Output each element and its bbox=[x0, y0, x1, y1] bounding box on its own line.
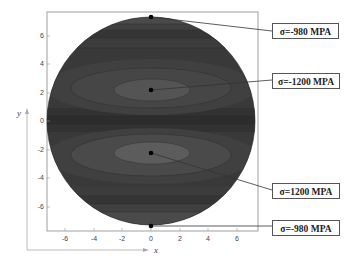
svg-text:4: 4 bbox=[40, 60, 44, 67]
contour-disc bbox=[40, 10, 270, 240]
point-top bbox=[149, 15, 154, 20]
svg-text:4: 4 bbox=[206, 235, 210, 242]
point-lower bbox=[149, 151, 154, 156]
x-tick-labels: -6 -4 -2 0 2 4 6 bbox=[62, 235, 239, 242]
svg-text:2: 2 bbox=[178, 235, 182, 242]
y-tick-labels: 6 4 2 0 -2 -4 -6 bbox=[38, 32, 44, 210]
svg-text:-6: -6 bbox=[38, 203, 44, 210]
svg-text:0: 0 bbox=[40, 117, 44, 124]
svg-text:-6: -6 bbox=[62, 235, 68, 242]
point-bottom bbox=[149, 224, 154, 229]
y-axis-label: y bbox=[16, 108, 21, 118]
label-upper-stress: σ=-1200 MPA bbox=[272, 73, 340, 89]
svg-text:6: 6 bbox=[40, 32, 44, 39]
svg-text:6: 6 bbox=[235, 235, 239, 242]
x-axis-label: x bbox=[153, 245, 158, 255]
label-top-stress: σ=-980 MPA bbox=[272, 23, 339, 39]
label-bottom-stress: σ=-980 MPA bbox=[272, 220, 340, 236]
svg-text:-4: -4 bbox=[38, 174, 44, 181]
label-lower-stress: σ=1200 MPA bbox=[272, 183, 340, 199]
svg-text:-2: -2 bbox=[38, 146, 44, 153]
svg-text:-4: -4 bbox=[91, 235, 97, 242]
svg-text:2: 2 bbox=[40, 89, 44, 96]
point-upper bbox=[149, 88, 154, 93]
svg-text:0: 0 bbox=[149, 235, 153, 242]
svg-text:-2: -2 bbox=[119, 235, 125, 242]
